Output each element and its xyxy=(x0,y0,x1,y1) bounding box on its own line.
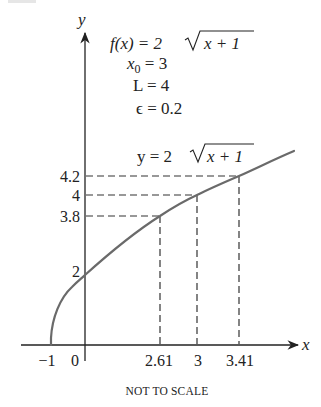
cropped-fragment xyxy=(8,0,36,3)
L-text: L = 4 xyxy=(133,76,170,95)
f-radicand-text: x + 1 xyxy=(203,34,240,53)
given-block: f(x) = 2 x + 1 x0 = 3 L = 4 ϵ = 0.2 xyxy=(110,31,254,118)
dashed-guides xyxy=(86,176,239,344)
y-tick-3-8: 3.8 xyxy=(60,208,80,225)
curve-label: y = 2 x + 1 xyxy=(137,144,254,166)
x-tick-3: 3 xyxy=(194,352,202,369)
curve-label-lhs: y = 2 xyxy=(137,147,172,166)
not-to-scale-caption: NOT TO SCALE xyxy=(126,385,209,397)
x0-definition: x0 = 3 xyxy=(126,54,167,76)
f-definition: f(x) = 2 xyxy=(110,34,163,53)
x-tick-neg-1: −1 xyxy=(38,352,55,369)
x-axis-label: x xyxy=(301,335,310,354)
L-definition: L = 4 xyxy=(133,76,170,95)
f-lhs: f(x) = 2 xyxy=(110,34,163,53)
epsilon-text: ϵ = 0.2 xyxy=(136,99,182,118)
x-tick-labels: −1 0 2.61 3 3.41 xyxy=(38,352,254,369)
curve-label-lhs-text: y = 2 xyxy=(137,147,172,166)
x-tick-0: 0 xyxy=(71,352,79,369)
y-axis-label: y xyxy=(76,10,86,29)
x-tick-2-61: 2.61 xyxy=(145,352,173,369)
f-radicand: x + 1 xyxy=(203,34,240,53)
curve-label-radicand: x + 1 xyxy=(206,147,243,166)
y-tick-4-2: 4.2 xyxy=(60,168,80,185)
x0-rhs: = 3 xyxy=(141,54,168,73)
x-tick-3-41: 3.41 xyxy=(226,352,254,369)
epsilon-definition: ϵ = 0.2 xyxy=(136,99,182,118)
function-curve xyxy=(51,151,294,345)
y-tick-4: 4 xyxy=(72,187,80,204)
epsilon-delta-figure: y x f(x) = 2 x + 1 x0 = 3 L = 4 ϵ = 0.2 … xyxy=(0,0,321,407)
curve-label-radicand-text: x + 1 xyxy=(206,147,243,166)
y-tick-labels: 4.2 4 3.8 2 xyxy=(60,168,80,280)
y-tick-2: 2 xyxy=(72,263,80,280)
